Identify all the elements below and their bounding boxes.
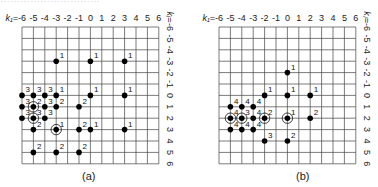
lattice-point <box>250 127 256 133</box>
lattice-point <box>262 93 268 99</box>
lattice-point <box>76 104 82 110</box>
lattice-point <box>53 150 59 156</box>
panel-b-caption: (b) <box>296 170 309 182</box>
point-label: 2 <box>37 120 42 129</box>
point-label: 1 <box>291 108 296 117</box>
lattice-point <box>88 93 94 99</box>
column-tick-label: -2 <box>261 13 269 23</box>
lattice-point <box>285 70 291 76</box>
row-tick-label: -5 <box>165 34 175 42</box>
row-tick-label: 0 <box>165 93 175 98</box>
row-tick-label: -5 <box>362 34 372 42</box>
lattice-point <box>307 93 313 99</box>
y-axis-label: kⱼ= <box>362 11 372 23</box>
point-label: 2 <box>60 97 65 106</box>
lattice-point <box>53 93 59 99</box>
point-label: 4 <box>245 120 250 129</box>
column-tick-label: 6 <box>353 13 358 23</box>
row-tick-label: 4 <box>362 138 372 143</box>
point-label: 2 <box>37 97 42 106</box>
row-tick-label: -6 <box>165 23 175 31</box>
row-tick-label: -1 <box>362 80 372 88</box>
column-tick-label: 4 <box>133 13 138 23</box>
point-label: 2 <box>268 108 273 117</box>
lattice-point <box>239 127 245 133</box>
row-tick-label: 5 <box>165 150 175 155</box>
lattice-point <box>262 115 268 121</box>
lattice-point <box>285 138 291 144</box>
point-label: 2 <box>83 142 88 151</box>
lattice-point <box>122 93 128 99</box>
y-axis-label: kᵢ= <box>165 12 175 23</box>
point-label: 3 <box>26 85 31 94</box>
point-label: 4 <box>257 120 262 129</box>
lattice-point <box>88 58 94 64</box>
point-label: 1 <box>128 51 133 60</box>
lattice-point <box>31 104 37 110</box>
lattice-point <box>42 93 48 99</box>
lattice-point <box>19 104 25 110</box>
row-tick-label: 3 <box>165 127 175 132</box>
column-tick-label: 1 <box>99 13 104 23</box>
lattice-point <box>31 115 37 121</box>
lattice-point <box>53 104 59 110</box>
panel-a-caption: (a) <box>82 170 95 182</box>
point-label: 1 <box>268 85 273 94</box>
point-label: 1 <box>60 51 65 60</box>
lattice-point <box>250 104 256 110</box>
column-tick-label: 5 <box>145 13 150 23</box>
point-label: 1 <box>128 85 133 94</box>
lattice-point <box>76 127 82 133</box>
column-tick-label: -5 <box>226 13 234 23</box>
point-label: 3 <box>48 85 53 94</box>
lattice-point <box>19 115 25 121</box>
column-tick-label: -4 <box>238 13 246 23</box>
column-tick-label: 3 <box>122 13 127 23</box>
column-tick-label: -4 <box>41 13 49 23</box>
point-label: 3 <box>37 85 42 94</box>
point-label: 2 <box>60 142 65 151</box>
row-tick-label: 2 <box>362 116 372 121</box>
point-label: 1 <box>291 63 296 72</box>
point-label: 3 <box>245 108 250 117</box>
column-tick-label: -3 <box>249 13 257 23</box>
point-label: 4 <box>245 97 250 106</box>
point-label: 2 <box>83 97 88 106</box>
point-label: 3 <box>37 108 42 117</box>
point-label: 4 <box>234 97 239 106</box>
lattice-point <box>307 115 313 121</box>
lattice-point <box>239 104 245 110</box>
row-tick-label: -4 <box>165 46 175 54</box>
row-tick-label: 0 <box>362 93 372 98</box>
lattice-point <box>42 104 48 110</box>
column-tick-label: 2 <box>308 13 313 23</box>
point-label: 1 <box>94 51 99 60</box>
column-tick-label: -5 <box>29 13 37 23</box>
column-tick-label: 4 <box>330 13 335 23</box>
lattice-point <box>42 115 48 121</box>
column-tick-label: 2 <box>111 13 116 23</box>
lattice-point <box>228 104 234 110</box>
row-tick-label: -6 <box>362 23 372 31</box>
point-label: 4 <box>257 108 262 117</box>
row-tick-label: -1 <box>165 80 175 88</box>
column-tick-label: 0 <box>285 13 290 23</box>
point-label: 3 <box>48 108 53 117</box>
column-tick-label: 1 <box>296 13 301 23</box>
lattice-point <box>285 115 291 121</box>
point-label: 4 <box>257 97 262 106</box>
column-tick-label: -1 <box>75 13 83 23</box>
point-label: 2 <box>83 120 88 129</box>
point-label: 1 <box>94 120 99 129</box>
row-tick-label: -2 <box>165 69 175 77</box>
row-tick-label: 2 <box>165 116 175 121</box>
column-tick-label: -6 <box>18 13 26 23</box>
row-tick-label: -4 <box>362 46 372 54</box>
lattice-point <box>31 150 37 156</box>
row-tick-label: -3 <box>165 57 175 65</box>
point-label: 1 <box>94 85 99 94</box>
lattice-diagram: -6-5-4-3-2-10123456k₁=-6-5-4-3-2-1012345… <box>0 0 378 187</box>
point-label: 4 <box>234 108 239 117</box>
lattice-point <box>228 115 234 121</box>
row-tick-label: 6 <box>165 161 175 166</box>
